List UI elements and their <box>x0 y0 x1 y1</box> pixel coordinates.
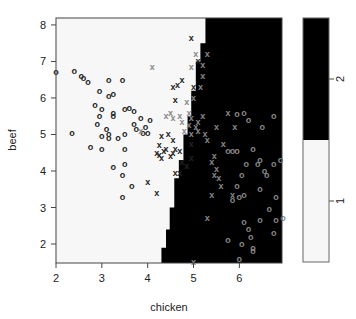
data-point: x <box>145 177 150 187</box>
legend-swatch-1 <box>303 140 329 262</box>
legend-swatch-2 <box>303 18 329 140</box>
data-point: o <box>129 181 135 191</box>
data-point: x <box>189 62 194 72</box>
y-axis-label: beef <box>6 128 18 150</box>
y-tick-label: 3 <box>40 202 46 214</box>
data-point: o <box>111 162 117 172</box>
x-axis-label: chicken <box>150 301 187 313</box>
y-tick-label: 4 <box>40 165 46 177</box>
data-point: o <box>271 228 277 238</box>
data-point: o <box>248 232 254 242</box>
data-point: o <box>97 86 103 96</box>
data-point: x <box>154 188 159 198</box>
y-tick-label: 7 <box>40 55 46 67</box>
data-point: o <box>88 142 94 152</box>
data-point: x <box>193 49 198 59</box>
data-point: o <box>250 144 256 154</box>
data-point: o <box>69 128 75 138</box>
data-point: o <box>266 204 272 214</box>
data-point: o <box>239 239 245 249</box>
data-point: o <box>230 195 236 205</box>
data-point: o <box>115 133 121 143</box>
data-point: o <box>237 254 243 264</box>
y-axis: 2345678 <box>40 19 56 250</box>
data-point: x <box>200 111 205 121</box>
legend-label: 1 <box>334 198 346 204</box>
data-point: o <box>234 109 240 119</box>
data-point: x <box>150 62 155 72</box>
data-point: x <box>189 153 194 163</box>
data-point: o <box>234 146 240 156</box>
data-point: x <box>180 75 185 85</box>
y-tick-label: 6 <box>40 92 46 104</box>
data-point: x <box>232 122 237 132</box>
data-point: x <box>189 129 194 139</box>
data-point: o <box>111 89 117 99</box>
data-point: o <box>271 111 277 121</box>
data-point: x <box>182 126 187 136</box>
data-point: o <box>241 190 247 200</box>
data-point: o <box>273 215 279 225</box>
data-point: o <box>131 106 137 116</box>
data-point: o <box>120 170 126 180</box>
data-point: x <box>191 93 196 103</box>
data-point: o <box>260 122 266 132</box>
data-point: x <box>198 82 203 92</box>
data-point: x <box>219 181 224 191</box>
y-tick-label: 2 <box>40 238 46 250</box>
data-point: x <box>200 60 205 70</box>
data-point: x <box>177 146 182 156</box>
data-point: o <box>271 159 277 169</box>
data-point: o <box>122 129 128 139</box>
y-tick-label: 5 <box>40 128 46 140</box>
data-point: x <box>177 168 182 178</box>
data-point: o <box>145 128 151 138</box>
data-point: o <box>280 213 286 223</box>
data-point: o <box>273 192 279 202</box>
data-point: x <box>225 108 230 118</box>
data-point: o <box>99 144 105 154</box>
data-point: x <box>164 144 169 154</box>
data-point: x <box>173 95 178 105</box>
data-point: x <box>189 113 194 123</box>
x-tick-label: 4 <box>145 272 151 284</box>
data-point: o <box>246 115 252 125</box>
data-point: o <box>257 215 263 225</box>
data-point: o <box>278 155 284 165</box>
x-tick-label: 6 <box>236 272 242 284</box>
data-point: x <box>138 126 143 136</box>
data-point: x <box>205 213 210 223</box>
data-point: o <box>99 131 105 141</box>
x-axis: 23456 <box>53 263 242 284</box>
data-point: x <box>205 49 210 59</box>
x-tick-label: 5 <box>190 272 196 284</box>
data-point: x <box>200 71 205 81</box>
data-point: x <box>196 126 201 136</box>
x-tick-label: 3 <box>99 272 105 284</box>
data-point: x <box>189 139 194 149</box>
data-point: x <box>159 153 164 163</box>
data-point: x <box>170 82 175 92</box>
data-point: x <box>205 135 210 145</box>
data-point: o <box>264 170 270 180</box>
data-point: o <box>239 170 245 180</box>
data-point: o <box>255 159 261 169</box>
data-point: o <box>106 133 112 143</box>
data-point: x <box>209 190 214 200</box>
data-point: x <box>214 122 219 132</box>
data-point: o <box>85 77 91 87</box>
data-point: o <box>120 192 126 202</box>
data-point: o <box>95 119 101 129</box>
data-point: o <box>92 100 98 110</box>
data-point: o <box>257 184 263 194</box>
data-point: o <box>122 144 128 154</box>
legend-label: 2 <box>334 76 346 82</box>
data-point: o <box>120 75 126 85</box>
data-point: o <box>225 235 231 245</box>
x-tick-label: 2 <box>53 272 59 284</box>
data-point: o <box>72 66 78 76</box>
classification-plot: oooooooooooooooooooooooooooooooooooooooo… <box>0 0 356 319</box>
data-point: x <box>191 82 196 92</box>
data-point: o <box>243 159 249 169</box>
data-point: o <box>111 111 117 121</box>
